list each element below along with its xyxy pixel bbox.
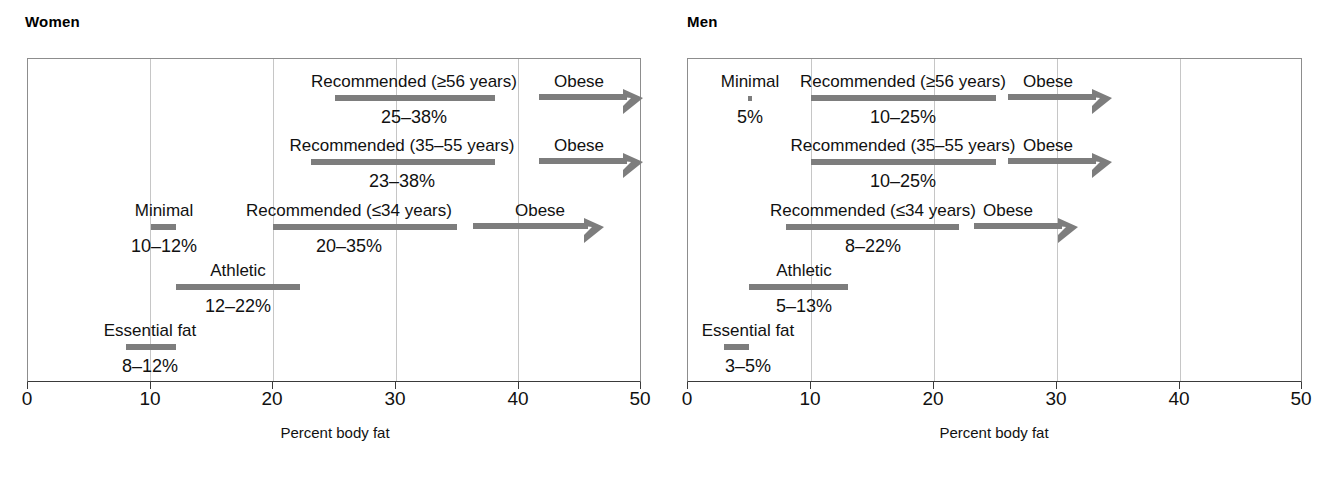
ticklabel-0: 0 — [682, 388, 693, 410]
value-recommended-34minus: 20–35% — [316, 237, 382, 255]
value-athletic: 5–13% — [776, 297, 832, 315]
ticklabel-50: 50 — [1290, 388, 1311, 410]
label-essential-fat: Essential fat — [702, 322, 795, 339]
label-athletic: Athletic — [776, 262, 832, 279]
bar-recommended-35-55 — [311, 159, 495, 165]
bar-essential-fat — [724, 344, 749, 350]
plot-area-women: Recommended (≥56 years) 25–38% Obese Rec… — [27, 58, 641, 382]
ticklabel-20: 20 — [261, 388, 282, 410]
label-recommended-56plus: Recommended (≥56 years) — [311, 73, 517, 90]
axis-title-men: Percent body fat — [939, 424, 1048, 441]
axis-title-women: Percent body fat — [280, 424, 389, 441]
bar-recommended-56plus — [335, 95, 495, 101]
label-minimal: Minimal — [721, 73, 780, 90]
label-recommended-34minus: Recommended (≤34 years) — [246, 202, 452, 219]
gridline-40 — [1180, 59, 1181, 381]
ticklabel-50: 50 — [629, 388, 650, 410]
obese-arrow-row3 — [473, 218, 605, 244]
bar-athletic — [749, 284, 848, 290]
label-essential-fat: Essential fat — [104, 322, 197, 339]
value-recommended-56plus: 25–38% — [381, 108, 447, 126]
arrow-right-icon — [1008, 89, 1113, 115]
bar-recommended-56plus — [811, 95, 996, 101]
arrow-right-icon — [974, 218, 1079, 244]
gridline-10 — [811, 59, 812, 381]
value-recommended-56plus: 10–25% — [870, 108, 936, 126]
ticklabel-10: 10 — [799, 388, 820, 410]
bar-recommended-34minus — [786, 224, 959, 230]
obese-arrow-row1 — [539, 89, 644, 115]
obese-arrow-row2 — [539, 153, 644, 179]
ticklabel-30: 30 — [384, 388, 405, 410]
value-essential-fat: 3–5% — [725, 357, 771, 375]
obese-arrow-row3 — [974, 218, 1079, 244]
bar-minimal — [151, 224, 176, 230]
value-essential-fat: 8–12% — [122, 357, 178, 375]
label-recommended-35-55: Recommended (35–55 years) — [791, 137, 1016, 154]
value-recommended-35-55: 10–25% — [870, 172, 936, 190]
ticklabel-20: 20 — [922, 388, 943, 410]
label-minimal: Minimal — [135, 202, 194, 219]
label-obese-row1: Obese — [1023, 73, 1073, 90]
bar-minimal — [748, 96, 752, 101]
label-athletic: Athletic — [210, 262, 266, 279]
gridline-20 — [273, 59, 274, 381]
label-recommended-56plus: Recommended (≥56 years) — [800, 73, 1006, 90]
obese-arrow-row2 — [1008, 153, 1113, 179]
arrow-right-icon — [539, 89, 644, 115]
label-recommended-35-55: Recommended (35–55 years) — [290, 137, 515, 154]
value-recommended-35-55: 23–38% — [369, 172, 435, 190]
label-obese-row3: Obese — [983, 202, 1033, 219]
label-recommended-34minus: Recommended (≤34 years) — [770, 202, 976, 219]
value-minimal: 5% — [737, 108, 763, 126]
panel-men: Men Minimal 5% Recommended (≥56 years) 1… — [662, 0, 1324, 483]
value-athletic: 12–22% — [205, 297, 271, 315]
arrow-right-icon — [473, 218, 605, 244]
ticklabel-40: 40 — [1168, 388, 1189, 410]
label-obese-row2: Obese — [1023, 137, 1073, 154]
plot-area-men: Minimal 5% Recommended (≥56 years) 10–25… — [687, 58, 1302, 382]
bar-recommended-34minus — [273, 224, 457, 230]
ticklabel-0: 0 — [22, 388, 33, 410]
bar-recommended-35-55 — [811, 159, 996, 165]
arrow-right-icon — [539, 153, 644, 179]
obese-arrow-row1 — [1008, 89, 1113, 115]
bar-athletic — [176, 284, 300, 290]
value-recommended-34minus: 8–22% — [845, 237, 901, 255]
label-obese-row1: Obese — [554, 73, 604, 90]
panel-title-men: Men — [687, 13, 718, 30]
panel-women: Women Recommended (≥56 years) 25–38% Obe… — [0, 0, 662, 483]
ticklabel-40: 40 — [507, 388, 528, 410]
bar-essential-fat — [126, 344, 176, 350]
label-obese-row3: Obese — [515, 202, 565, 219]
value-minimal: 10–12% — [131, 237, 197, 255]
body-fat-chart-figure: Women Recommended (≥56 years) 25–38% Obe… — [0, 0, 1324, 483]
panel-title-women: Women — [25, 13, 80, 30]
ticklabel-10: 10 — [139, 388, 160, 410]
ticklabel-30: 30 — [1045, 388, 1066, 410]
arrow-right-icon — [1008, 153, 1113, 179]
label-obese-row2: Obese — [554, 137, 604, 154]
